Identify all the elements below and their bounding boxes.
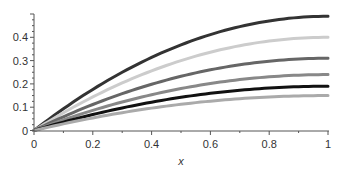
y-tick-label: 0.2 [13, 78, 28, 90]
series-line-curve-5 [34, 86, 328, 130]
series-line-curve-6 [34, 96, 328, 131]
line-chart: 00.10.20.30.4 00.20.40.60.81 x [0, 0, 343, 173]
y-tick-label: 0.1 [13, 101, 28, 113]
x-tick-label: 1 [325, 138, 331, 150]
x-tick-label: 0.8 [262, 138, 277, 150]
x-tick-label: 0 [31, 138, 37, 150]
axes: 00.10.20.30.4 00.20.40.60.81 [13, 14, 331, 150]
y-tick-label: 0 [22, 125, 28, 137]
x-axis-label: x [177, 155, 184, 167]
y-tick-label: 0.3 [13, 55, 28, 67]
x-tick-label: 0.2 [85, 138, 100, 150]
y-tick-label: 0.4 [13, 31, 28, 43]
series-line-curve-1 [34, 16, 328, 130]
x-tick-label: 0.4 [144, 138, 159, 150]
plot-lines [34, 16, 328, 130]
x-ticks: 00.20.40.60.81 [31, 131, 331, 150]
x-tick-label: 0.6 [203, 138, 218, 150]
y-ticks: 00.10.20.30.4 [13, 14, 34, 137]
